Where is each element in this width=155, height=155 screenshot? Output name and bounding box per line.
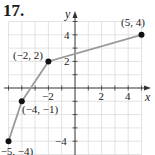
y-tick-label-4: 4: [64, 29, 70, 41]
point-d: [139, 32, 145, 38]
point-label-c: (−2, 2): [13, 49, 43, 62]
point-label-d: (5, 4): [121, 16, 145, 29]
x-tick-label-neg2: −2: [42, 90, 54, 102]
point-a: [6, 138, 12, 144]
x-tick-label-4: 4: [125, 90, 131, 102]
point-c: [45, 58, 51, 64]
y-axis-arrow-icon: [73, 11, 78, 18]
x-axis-label: x: [144, 90, 151, 104]
y-tick-label-neg4: −4: [55, 135, 67, 147]
point-label-b: (−4, −1): [22, 103, 59, 116]
graph: −2 2 4 4 2 −4 x y (−5, −4) (−4, −1) (−2,…: [0, 0, 155, 155]
x-tick-label-2: 2: [99, 90, 105, 102]
y-axis-label: y: [64, 7, 71, 21]
point-label-a: (−5, −4): [0, 145, 34, 155]
